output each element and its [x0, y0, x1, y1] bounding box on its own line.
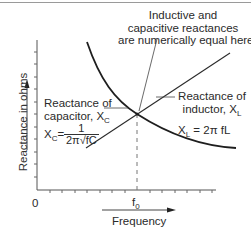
inductor-label-line-1: Reactance of: [172, 90, 251, 103]
capacitor-label-line-1: Reactance of: [44, 97, 112, 110]
resonant-frequency-label: f0: [132, 196, 140, 214]
inductor-label-line-2: inductor, XL: [172, 103, 251, 121]
annotation-line-2: capacitive reactances: [118, 22, 248, 35]
inductor-reactance-label: Reactance of inductor, XL: [172, 90, 251, 120]
capacitor-formula-fraction: 1 2π√fC: [64, 123, 99, 146]
formula-numerator: 1: [76, 123, 86, 134]
x-axis-label: Frequency: [112, 215, 166, 228]
inductor-formula: XL = 2π fL: [178, 124, 230, 142]
y-axis-label: Reactance in ohms: [17, 67, 29, 177]
equal-reactance-annotation: Inductive and capacitive reactances are …: [118, 9, 248, 47]
capacitor-formula-lhs: XC=: [44, 128, 64, 146]
annotation-line-3: are numerically equal here: [118, 34, 248, 47]
origin-label: 0: [32, 197, 38, 210]
intersection-point: [136, 113, 139, 116]
annotation-line-1: Inductive and: [118, 9, 248, 22]
formula-denominator: 2π√fC: [64, 134, 99, 146]
x-axis-arrowhead-icon: [167, 208, 176, 213]
annotation-leader-line: [139, 39, 157, 111]
